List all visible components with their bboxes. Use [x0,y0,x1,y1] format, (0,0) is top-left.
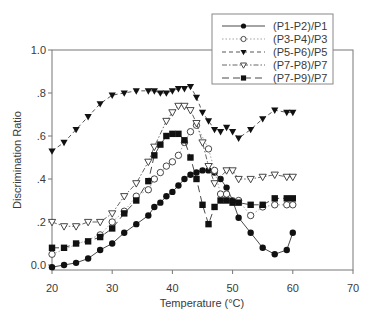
open-circle-marker [272,202,278,208]
filled-triangle-down-marker [109,93,116,99]
filled-triangle-down-marker [85,114,92,120]
filled-triangle-down-marker [199,110,206,116]
series-layer [48,84,296,270]
open-circle-marker [290,202,296,208]
filled-circle-marker [260,245,266,251]
filled-circle-marker [85,255,91,261]
open-circle-marker [205,146,211,152]
filled-triangle-down-marker [163,90,170,96]
filled-triangle-down-marker [223,125,230,131]
filled-triangle-down-marker [133,88,140,94]
filled-circle-marker [133,221,139,227]
discrimination-ratio-chart: 0.0.2.4.6.81.0 203040506070 Discriminati… [0,0,374,326]
filled-circle-marker [169,189,175,195]
open-circle-marker [145,187,151,193]
filled-circle-marker [284,247,290,253]
series-3 [48,84,296,155]
filled-square-marker [229,199,235,205]
filled-square-marker [109,225,115,231]
filled-circle-marker [290,230,296,236]
x-axis-label: Temperature (°C) [160,297,244,309]
filled-triangle-down-marker [247,127,254,133]
open-triangle-down-marker [72,224,79,230]
filled-square-marker [169,131,175,137]
open-triangle-down-marker [199,140,206,146]
filled-triangle-down-marker [181,86,188,92]
open-circle-marker [284,202,290,208]
open-triangle-down-marker [163,118,170,124]
filled-circle-marker [199,167,205,173]
x-tick-label: 50 [226,282,238,294]
filled-square-marker [241,75,246,80]
filled-square-marker [133,197,139,203]
x-tick-label: 40 [166,282,178,294]
filled-square-marker [211,204,217,210]
open-triangle-down-marker [181,103,188,109]
legend-label: (P5-P6)/P5 [273,46,327,58]
filled-square-marker [247,202,253,208]
filled-circle-marker [163,193,169,199]
filled-circle-marker [49,264,55,270]
y-tick-label: .4 [37,173,46,185]
y-tick-label: .2 [37,216,46,228]
filled-circle-marker [181,176,187,182]
filled-circle-marker [109,240,115,246]
open-triangle-down-marker [145,159,152,165]
filled-triangle-down-marker [217,129,224,135]
filled-triangle-down-marker [235,136,242,142]
filled-square-marker [272,195,278,201]
filled-square-marker [199,202,205,208]
x-tick-label: 30 [106,282,118,294]
filled-square-marker [163,133,169,139]
filled-square-marker [145,178,151,184]
filled-square-marker [151,152,157,158]
filled-triangle-down-marker [157,90,164,96]
filled-circle-marker [145,212,151,218]
filled-circle-marker [223,184,229,190]
open-triangle-down-marker [187,108,194,114]
series-line [52,106,293,226]
filled-square-marker [157,141,163,147]
filled-circle-marker [187,172,193,178]
open-circle-marker [217,191,223,197]
filled-square-marker [85,238,91,244]
x-tick-label: 70 [347,282,359,294]
open-circle-marker [187,129,193,135]
series-1 [49,167,296,270]
series-line [52,170,293,267]
filled-triangle-down-marker [229,129,236,135]
filled-circle-marker [97,247,103,253]
filled-circle-marker [121,230,127,236]
filled-square-marker [187,154,193,160]
open-circle-marker [223,191,229,197]
filled-square-marker [121,210,127,216]
filled-triangle-down-marker [283,110,290,116]
filled-triangle-down-marker [289,110,296,116]
open-circle-marker [157,169,163,175]
filled-triangle-down-marker [145,88,152,94]
filled-circle-marker [175,182,181,188]
open-circle-marker [169,159,175,165]
filled-square-marker [235,199,241,205]
filled-square-marker [260,202,266,208]
open-circle-marker [175,152,181,158]
y-tick-label: .6 [37,130,46,142]
open-circle-marker [49,251,55,257]
open-circle-marker [247,212,253,218]
x-tick-label: 60 [287,282,299,294]
y-tick-label: 1.0 [31,44,46,56]
filled-circle-marker [247,230,253,236]
filled-circle-marker [235,215,241,221]
open-triangle-down-marker [151,144,158,150]
filled-circle-marker [73,260,79,266]
legend-label: (P1-P2)/P1 [273,20,327,32]
filled-square-marker [61,245,67,251]
filled-triangle-down-marker [60,140,67,146]
filled-square-marker [49,245,55,251]
x-tick-label: 20 [46,282,58,294]
filled-square-marker [97,234,103,240]
open-triangle-down-marker [97,219,104,225]
filled-circle-marker [151,204,157,210]
legend-label: (P3-P4)/P3 [273,33,327,45]
filled-triangle-down-marker [48,148,55,154]
